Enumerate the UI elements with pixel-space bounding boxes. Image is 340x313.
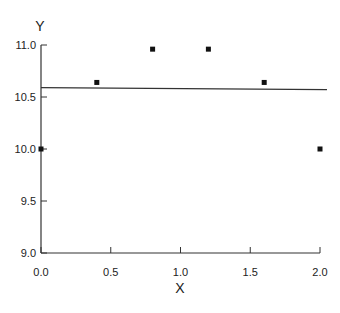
- x-tick-label: 0.0: [33, 266, 48, 278]
- scatter-chart: Y X 9.09.510.010.511.0 0.00.51.01.52.0: [0, 0, 340, 313]
- data-point-square: [39, 147, 44, 152]
- data-point-square: [94, 80, 99, 85]
- x-tick-label: 1.0: [173, 266, 188, 278]
- y-tick-label: 10.0: [15, 143, 36, 155]
- y-tick-label: 9.0: [21, 247, 36, 259]
- x-tick-label: 2.0: [312, 266, 327, 278]
- y-tick-label: 11.0: [15, 39, 36, 51]
- axes: [41, 45, 320, 253]
- x-tick-label: 1.5: [243, 266, 258, 278]
- y-tick-label: 10.5: [15, 91, 36, 103]
- x-tick-labels: 0.00.51.01.52.0: [33, 266, 327, 278]
- data-point-square: [262, 80, 267, 85]
- regression-line: [41, 88, 327, 90]
- x-axis-label: X: [175, 280, 185, 296]
- fit-line: [41, 88, 327, 90]
- data-point-square: [318, 147, 323, 152]
- data-point-square: [206, 47, 211, 52]
- data-point-square: [150, 47, 155, 52]
- y-axis-label: Y: [35, 18, 45, 34]
- y-tick-labels: 9.09.510.010.511.0: [15, 39, 36, 259]
- data-points: [39, 47, 323, 152]
- y-tick-label: 9.5: [21, 195, 36, 207]
- x-tick-label: 0.5: [103, 266, 118, 278]
